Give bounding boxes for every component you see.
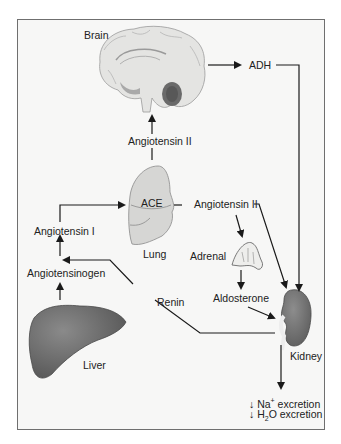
aldosterone-label: Aldosterone xyxy=(213,292,269,304)
down-arrow-icon: ↓ xyxy=(249,408,254,420)
angiotensinogen-label: Angiotensinogen xyxy=(27,267,105,279)
renin-label: Renin xyxy=(157,296,184,308)
brain-label: Brain xyxy=(84,29,109,41)
liver-illustration xyxy=(29,305,126,378)
kidney-illustration xyxy=(281,290,311,350)
lung-label: Lung xyxy=(143,248,166,260)
kidney-label: Kidney xyxy=(290,350,322,362)
raas-diagram xyxy=(0,0,341,444)
brain-illustration xyxy=(100,26,205,112)
adrenal-illustration xyxy=(232,242,263,269)
adrenal-label: Adrenal xyxy=(190,250,226,262)
adh-label: ADH xyxy=(249,59,271,71)
angiotensin-ii-brain-label: Angiotensin II xyxy=(128,135,192,147)
liver-label: Liver xyxy=(83,359,106,371)
angiotensin-i-label: Angiotensin I xyxy=(34,225,95,237)
ace-label: ACE xyxy=(141,197,163,209)
angiotensin-ii-lung-label: Angiotensin II xyxy=(194,198,258,210)
h2o-excretion-label: ↓ H2O excretion xyxy=(249,408,322,425)
